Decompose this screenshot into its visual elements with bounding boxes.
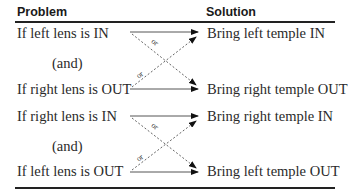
or-label: or bbox=[134, 69, 145, 80]
or-label: or bbox=[149, 121, 160, 132]
arrow-group-1: or or bbox=[130, 32, 198, 89]
arrow-group-2: or or bbox=[130, 116, 198, 172]
bottom-rule bbox=[15, 187, 335, 189]
or-label: or bbox=[149, 37, 160, 48]
or-label: or bbox=[134, 152, 145, 163]
arrow-diagram: or or or or bbox=[0, 0, 348, 196]
